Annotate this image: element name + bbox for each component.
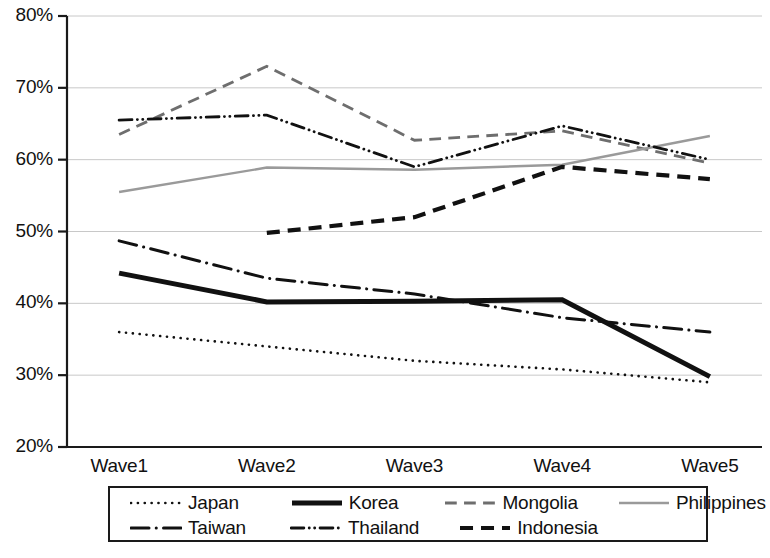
x-axis-tick-label-wave2: Wave2 bbox=[207, 455, 327, 477]
legend-label: Thailand bbox=[348, 517, 419, 539]
legend-row: JapanKoreaMongoliaPhilippines bbox=[110, 490, 706, 516]
legend-label: Taiwan bbox=[188, 517, 246, 539]
series-line-taiwan bbox=[119, 241, 710, 332]
legend-line-sample-icon bbox=[130, 494, 182, 512]
legend-line-sample-icon bbox=[618, 494, 670, 512]
legend-item-indonesia[interactable]: Indonesia bbox=[459, 517, 598, 539]
legend-label: Indonesia bbox=[517, 517, 598, 539]
series-line-mongolia bbox=[119, 66, 710, 163]
legend-label: Mongolia bbox=[502, 492, 578, 514]
legend-row: TaiwanThailandIndonesia bbox=[110, 515, 706, 541]
data-series-group bbox=[119, 66, 710, 382]
legend-label: Korea bbox=[349, 492, 399, 514]
y-axis-tick-label: 30% bbox=[0, 363, 53, 385]
legend-item-mongolia[interactable]: Mongolia bbox=[444, 492, 578, 514]
line-chart: 80%70%60%50%40%30%20% Wave1Wave2Wave3Wav… bbox=[0, 0, 770, 558]
legend-item-japan[interactable]: Japan bbox=[130, 492, 239, 514]
gridlines bbox=[67, 16, 762, 447]
legend-label: Japan bbox=[188, 492, 239, 514]
y-axis-tick-label: 80% bbox=[0, 4, 53, 26]
legend-line-sample-icon bbox=[444, 494, 496, 512]
y-axis-tick-label: 40% bbox=[0, 291, 53, 313]
legend-item-thailand[interactable]: Thailand bbox=[290, 517, 419, 539]
y-axis-tick-label: 60% bbox=[0, 148, 53, 170]
x-axis-tick-label-wave4: Wave4 bbox=[502, 455, 622, 477]
legend-line-sample-icon bbox=[290, 519, 342, 537]
legend-item-philippines[interactable]: Philippines bbox=[618, 492, 766, 514]
legend-item-taiwan[interactable]: Taiwan bbox=[130, 517, 246, 539]
y-axis-tick-label: 50% bbox=[0, 220, 53, 242]
legend-line-sample-icon bbox=[459, 519, 511, 537]
series-line-korea bbox=[119, 273, 710, 376]
x-axis-tick-label-wave1: Wave1 bbox=[59, 455, 179, 477]
y-axis-tick-label: 70% bbox=[0, 76, 53, 98]
x-axis-tick-label-wave5: Wave5 bbox=[650, 455, 770, 477]
chart-legend: JapanKoreaMongoliaPhilippines TaiwanThai… bbox=[108, 486, 708, 542]
series-line-indonesia bbox=[267, 167, 710, 233]
legend-item-korea[interactable]: Korea bbox=[291, 492, 399, 514]
y-axis-tick-label: 20% bbox=[0, 435, 53, 457]
legend-line-sample-icon bbox=[291, 494, 343, 512]
legend-label: Philippines bbox=[676, 492, 766, 514]
legend-line-sample-icon bbox=[130, 519, 182, 537]
x-axis-tick-label-wave3: Wave3 bbox=[355, 455, 475, 477]
